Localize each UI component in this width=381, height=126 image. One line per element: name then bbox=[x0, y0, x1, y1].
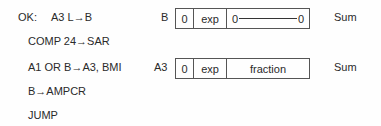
fraction-cell: fraction bbox=[227, 59, 309, 78]
code-line-1: A3 L→B bbox=[51, 11, 92, 23]
sign-cell: 0 bbox=[176, 59, 194, 78]
code-line-3: A1 OR B→A3, BMI bbox=[28, 61, 122, 73]
exp-cell: exp bbox=[194, 59, 227, 78]
range-line bbox=[239, 18, 297, 19]
sign-cell: 0 bbox=[176, 9, 194, 28]
register-b-annotation: Sum bbox=[334, 11, 357, 23]
code-line-2: COMP 24→SAR bbox=[28, 35, 110, 47]
register-a3-box: 0 exp fraction bbox=[175, 58, 310, 79]
register-b-label: B bbox=[161, 11, 168, 23]
code-line-4: B→AMPCR bbox=[28, 85, 86, 97]
fraction-end: 0 bbox=[298, 13, 304, 25]
fraction-zero-cell: 0 0 bbox=[227, 9, 309, 28]
code-line-5: JUMP bbox=[28, 109, 58, 121]
exp-cell: exp bbox=[194, 9, 227, 28]
register-b-box: 0 exp 0 0 bbox=[175, 8, 310, 29]
register-a3-annotation: Sum bbox=[334, 61, 357, 73]
code-label-ok: OK: bbox=[18, 11, 37, 23]
register-a3-label: A3 bbox=[154, 61, 167, 73]
fraction-start: 0 bbox=[232, 13, 238, 25]
